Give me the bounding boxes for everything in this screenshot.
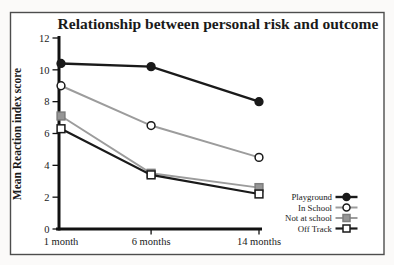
y-tick-label: 2 (44, 192, 49, 203)
legend-label: Not at school (285, 213, 332, 223)
data-point-off-track (255, 190, 263, 198)
legend-label: Off Track (298, 224, 333, 234)
legend-item-off-track: Off Track (298, 224, 358, 234)
data-point-not-at-school (57, 112, 65, 120)
data-point-playground (57, 60, 65, 68)
chart-title: Relationship between personal risk and o… (58, 15, 379, 32)
data-point-off-track (147, 171, 155, 179)
y-tick-label: 8 (44, 96, 49, 107)
legend-item-playground: Playground (291, 192, 357, 202)
data-point-in-school (57, 82, 65, 90)
line-chart: Relationship between personal risk and o… (0, 0, 394, 265)
y-tick-label: 6 (44, 128, 49, 139)
y-tick-label: 0 (44, 224, 49, 235)
y-tick-label: 12 (39, 33, 50, 44)
legend-label: Playground (291, 192, 332, 202)
data-point-off-track (343, 225, 350, 232)
data-point-not-at-school (343, 215, 350, 222)
y-tick-label: 4 (44, 160, 50, 171)
x-category-label: 6 months (132, 236, 171, 247)
data-point-in-school (147, 122, 155, 130)
x-category-label: 14 months (237, 236, 281, 247)
x-category-label: 1 month (44, 236, 79, 247)
data-point-playground (343, 194, 350, 201)
data-point-off-track (57, 125, 65, 133)
data-point-in-school (343, 204, 350, 211)
y-axis-label: Mean Reaction index score (11, 68, 23, 200)
data-point-playground (255, 98, 263, 106)
data-point-in-school (255, 153, 263, 161)
legend-item-in-school: In School (298, 203, 357, 213)
legend-item-not-at-school: Not at school (285, 213, 357, 223)
data-point-playground (147, 63, 155, 71)
y-tick-label: 10 (39, 65, 50, 76)
chart-figure: Relationship between personal risk and o… (0, 0, 394, 265)
legend-label: In School (298, 203, 333, 213)
